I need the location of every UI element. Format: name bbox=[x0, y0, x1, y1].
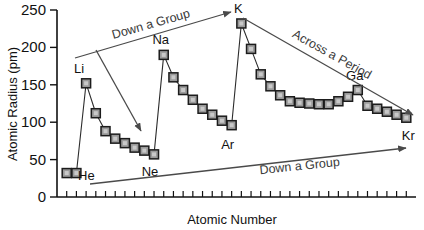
data-point-core bbox=[104, 129, 108, 133]
y-tick-label: 200 bbox=[21, 38, 46, 55]
y-tick-label: 100 bbox=[21, 113, 46, 130]
element-label-li: Li bbox=[74, 61, 84, 76]
data-point-core bbox=[133, 146, 137, 150]
data-point-core bbox=[94, 111, 98, 115]
data-point-core bbox=[181, 88, 185, 92]
annotation-label-3: Down a Group bbox=[259, 155, 341, 177]
data-point-core bbox=[84, 81, 88, 85]
y-tick-label: 150 bbox=[21, 76, 46, 93]
data-point-core bbox=[239, 21, 243, 25]
data-point-core bbox=[65, 171, 69, 175]
data-point-core bbox=[249, 47, 253, 51]
chart-canvas: 050100150200250 Atomic Radius (pm) Atomi… bbox=[0, 0, 424, 230]
data-point-core bbox=[152, 152, 156, 156]
data-point-core bbox=[123, 141, 127, 145]
data-point-core bbox=[395, 113, 399, 117]
data-point-core bbox=[336, 99, 340, 103]
data-point-core bbox=[375, 107, 379, 111]
data-point-core bbox=[191, 98, 195, 102]
element-label-he: He bbox=[78, 168, 95, 183]
annotation-label-0: Down a Group bbox=[110, 6, 191, 42]
data-point-core bbox=[385, 110, 389, 114]
y-axis-title: Atomic Radius (pm) bbox=[5, 47, 20, 161]
y-tick-label: 50 bbox=[29, 151, 46, 168]
data-point-core bbox=[230, 123, 234, 127]
data-point-core bbox=[171, 75, 175, 79]
x-axis-ticks bbox=[67, 191, 407, 197]
data-point-core bbox=[268, 84, 272, 88]
data-point-core bbox=[288, 99, 292, 103]
element-label-kr: Kr bbox=[402, 128, 416, 143]
data-point-core bbox=[404, 116, 408, 120]
y-axis-ticks bbox=[50, 10, 57, 197]
data-point-core bbox=[259, 72, 263, 76]
element-label-k: K bbox=[234, 1, 243, 16]
y-tick-label: 0 bbox=[38, 188, 46, 205]
annotation-arrow-3 bbox=[90, 148, 406, 184]
y-axis-tick-labels: 050100150200250 bbox=[21, 1, 46, 205]
data-point-core bbox=[307, 102, 311, 106]
data-point-core bbox=[278, 93, 282, 97]
data-point-core bbox=[162, 53, 166, 57]
y-tick-label: 250 bbox=[21, 1, 46, 18]
data-point-core bbox=[356, 88, 360, 92]
annotation-arrow-2 bbox=[96, 50, 141, 131]
atomic-radius-chart: 050100150200250 Atomic Radius (pm) Atomi… bbox=[0, 0, 424, 230]
data-point-core bbox=[317, 102, 321, 106]
element-label-ar: Ar bbox=[221, 137, 235, 152]
data-point-core bbox=[346, 95, 350, 99]
data-point-core bbox=[201, 107, 205, 111]
annotation-label-1: Across a Period bbox=[290, 27, 374, 82]
data-point-core bbox=[210, 113, 214, 117]
data-point-core bbox=[365, 104, 369, 108]
data-point-core bbox=[298, 101, 302, 105]
data-point-core bbox=[327, 102, 331, 106]
data-point-core bbox=[113, 137, 117, 141]
data-point-core bbox=[142, 149, 146, 153]
data-point-core bbox=[220, 119, 224, 123]
x-axis-title: Atomic Number bbox=[187, 212, 277, 227]
